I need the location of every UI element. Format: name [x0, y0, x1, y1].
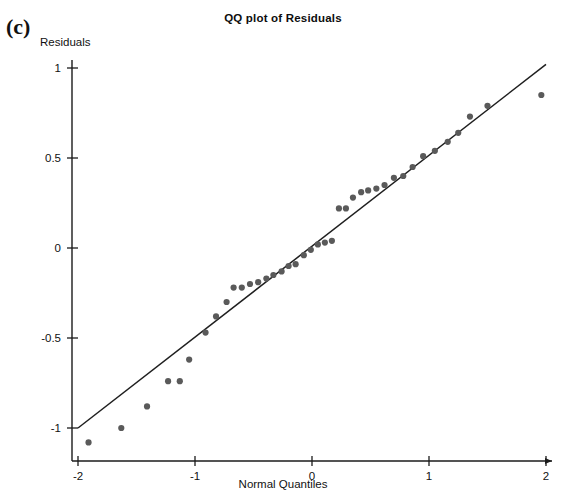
data-point: [484, 103, 490, 109]
qq-plot-figure: (c) QQ plot of Residuals Residuals Norma…: [0, 0, 566, 498]
data-point: [247, 281, 253, 287]
data-point: [165, 378, 171, 384]
data-point: [301, 252, 307, 258]
axes-group: [72, 60, 552, 464]
data-point: [118, 425, 124, 431]
data-point: [223, 299, 229, 305]
data-point: [186, 357, 192, 363]
data-point: [455, 130, 461, 136]
data-point: [350, 195, 356, 201]
data-point: [144, 403, 150, 409]
data-point: [293, 261, 299, 267]
data-point: [202, 330, 208, 336]
data-point: [270, 272, 276, 278]
data-point: [365, 187, 371, 193]
data-point: [400, 173, 406, 179]
data-point: [381, 182, 387, 188]
x-tick-label: -1: [190, 470, 200, 482]
data-point: [255, 279, 261, 285]
data-point: [231, 285, 237, 291]
plot-canvas: -2-1012 -1-0.500.51: [0, 0, 566, 498]
data-point: [308, 247, 314, 253]
x-tick-label: -2: [73, 470, 83, 482]
data-point: [538, 92, 544, 98]
normal-reference-line: [78, 64, 546, 428]
y-tick-label: 1: [55, 62, 61, 74]
reference-line-group: [78, 64, 546, 428]
data-points-group: [85, 92, 544, 446]
y-tick-label: -0.5: [41, 332, 61, 344]
data-point: [420, 153, 426, 159]
data-point: [329, 238, 335, 244]
data-point: [278, 268, 284, 274]
x-tick-label: 2: [543, 470, 549, 482]
y-tick-label: 0.5: [45, 152, 61, 164]
data-point: [286, 263, 292, 269]
data-point: [391, 175, 397, 181]
data-point: [177, 378, 183, 384]
data-point: [358, 189, 364, 195]
y-tick-label: -1: [51, 422, 61, 434]
data-point: [432, 148, 438, 154]
x-tick-label: 1: [426, 470, 432, 482]
y-tick-label: 0: [55, 242, 61, 254]
data-point: [343, 205, 349, 211]
x-tick-label: 0: [309, 470, 315, 482]
data-point: [85, 439, 91, 445]
data-point: [239, 285, 245, 291]
data-point: [410, 164, 416, 170]
data-point: [213, 313, 219, 319]
x-tick-group: -2-1012: [73, 456, 549, 482]
data-point: [322, 240, 328, 246]
data-point: [263, 276, 269, 282]
data-point: [373, 186, 379, 192]
data-point: [445, 139, 451, 145]
data-point: [467, 114, 473, 120]
data-point: [336, 205, 342, 211]
data-point: [315, 241, 321, 247]
